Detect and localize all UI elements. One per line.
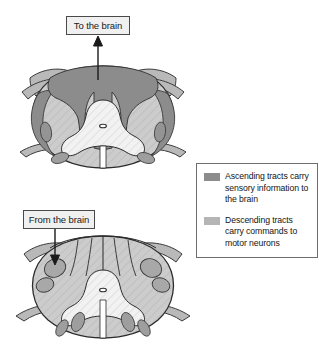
- callout-to-the-brain-label: To the brain: [74, 21, 122, 31]
- callout-from-the-brain: From the brain: [23, 210, 95, 229]
- ascending-tract-swatch: [204, 173, 220, 181]
- legend-item-ascending: Ascending tracts carry sensory informati…: [204, 171, 310, 206]
- upper-cord-diagram: [20, 66, 186, 168]
- lower-ventral-fissure: [100, 300, 106, 338]
- descending-tract-swatch: [204, 217, 220, 225]
- tract-legend: Ascending tracts carry sensory informati…: [196, 163, 318, 258]
- callout-to-the-brain: To the brain: [66, 16, 130, 35]
- legend-item-descending: Descending tracts carry commands to moto…: [204, 215, 310, 250]
- legend-item-descending-label: Descending tracts carry commands to moto…: [225, 215, 310, 250]
- upper-central-canal: [100, 124, 107, 128]
- upper-ventral-fissure: [100, 146, 106, 168]
- lower-cord-diagram: [16, 236, 190, 338]
- lower-central-canal: [100, 288, 107, 292]
- legend-item-ascending-label: Ascending tracts carry sensory informati…: [225, 171, 310, 206]
- callout-from-the-brain-label: From the brain: [29, 215, 89, 225]
- spinal-cord-figure: To the brain From the brain Ascending tr…: [0, 0, 319, 349]
